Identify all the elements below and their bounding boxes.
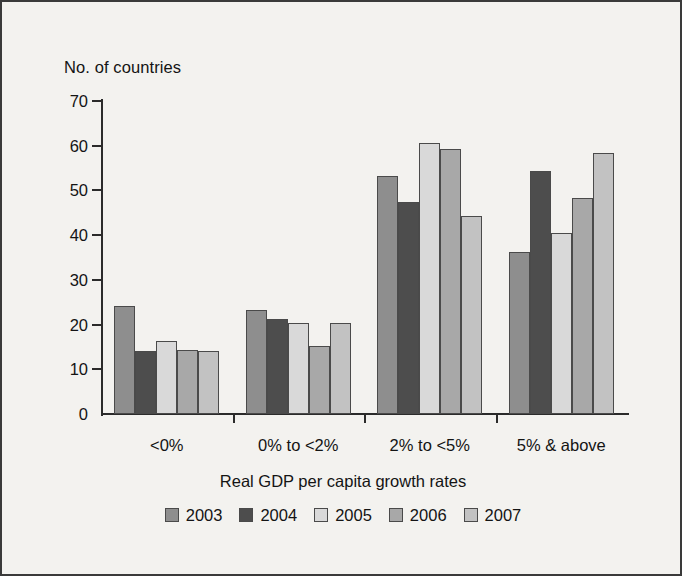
x-tick-mark	[496, 414, 498, 423]
bar-2007-2% to <5%[interactable]	[461, 216, 482, 414]
y-tick-mark	[92, 234, 101, 236]
bar-2004-5% & above[interactable]	[530, 171, 551, 414]
y-axis-title: No. of countries	[64, 58, 181, 77]
category-label-4: 5% & above	[517, 436, 606, 455]
y-tick-mark	[92, 100, 101, 102]
y-tick-label: 20	[70, 315, 88, 334]
bar-2004-<0%[interactable]	[135, 351, 156, 414]
bar-2003-<0%[interactable]	[114, 306, 135, 414]
bar-2007-5% & above[interactable]	[593, 153, 614, 414]
y-tick-label: 60	[70, 136, 88, 155]
legend-swatch-2004	[239, 508, 253, 522]
bar-2005-0% to <2%[interactable]	[288, 323, 309, 414]
legend-item-2006[interactable]: 2006	[389, 507, 447, 524]
y-tick-label: 50	[70, 181, 88, 200]
x-tick-mark	[233, 414, 235, 423]
legend-label-2003: 2003	[186, 507, 223, 524]
chart-figure: No. of countries 010203040506070 <0%0% t…	[0, 0, 682, 576]
legend-label-2006: 2006	[410, 507, 447, 524]
x-tick-mark	[364, 414, 366, 423]
x-axis-title: Real GDP per capita growth rates	[2, 472, 682, 491]
y-tick-label: 40	[70, 226, 88, 245]
bar-2005-2% to <5%[interactable]	[419, 143, 440, 414]
category-label-1: <0%	[150, 436, 183, 455]
legend-label-2007: 2007	[485, 507, 522, 524]
bar-2005-<0%[interactable]	[156, 341, 177, 414]
category-label-3: 2% to <5%	[390, 436, 470, 455]
y-tick-label: 10	[70, 360, 88, 379]
y-tick-mark	[92, 145, 101, 147]
bar-2006-0% to <2%[interactable]	[309, 346, 330, 414]
legend-swatch-2005	[314, 508, 328, 522]
y-tick-label: 0	[79, 405, 88, 424]
category-label-2: 0% to <2%	[258, 436, 338, 455]
legend-item-2004[interactable]: 2004	[239, 507, 297, 524]
legend-item-2005[interactable]: 2005	[314, 507, 372, 524]
legend-item-2003[interactable]: 2003	[165, 507, 223, 524]
bar-2004-0% to <2%[interactable]	[267, 319, 288, 414]
plot-area: 010203040506070	[101, 101, 627, 414]
bar-group	[246, 101, 351, 414]
bar-2007-0% to <2%[interactable]	[330, 323, 351, 414]
y-tick-mark	[92, 189, 101, 191]
bar-2006-5% & above[interactable]	[572, 198, 593, 414]
bar-2007-<0%[interactable]	[198, 351, 219, 414]
legend: 20032004200520062007	[2, 507, 682, 524]
bar-group	[509, 101, 614, 414]
y-tick-label: 70	[70, 92, 88, 111]
bar-2005-5% & above[interactable]	[551, 233, 572, 414]
legend-swatch-2003	[165, 508, 179, 522]
y-tick-label: 30	[70, 270, 88, 289]
bar-group	[377, 101, 482, 414]
y-tick-mark	[92, 324, 101, 326]
bar-2003-5% & above[interactable]	[509, 252, 530, 414]
bar-group	[114, 101, 219, 414]
legend-label-2004: 2004	[260, 507, 297, 524]
legend-swatch-2006	[389, 508, 403, 522]
bar-2006-2% to <5%[interactable]	[440, 149, 461, 414]
bar-2003-0% to <2%[interactable]	[246, 310, 267, 414]
bar-2004-2% to <5%[interactable]	[398, 202, 419, 414]
legend-label-2005: 2005	[335, 507, 372, 524]
legend-item-2007[interactable]: 2007	[464, 507, 522, 524]
y-tick-mark	[92, 279, 101, 281]
legend-swatch-2007	[464, 508, 478, 522]
y-tick-mark	[92, 368, 101, 370]
bar-2003-2% to <5%[interactable]	[377, 176, 398, 414]
bar-2006-<0%[interactable]	[177, 350, 198, 414]
